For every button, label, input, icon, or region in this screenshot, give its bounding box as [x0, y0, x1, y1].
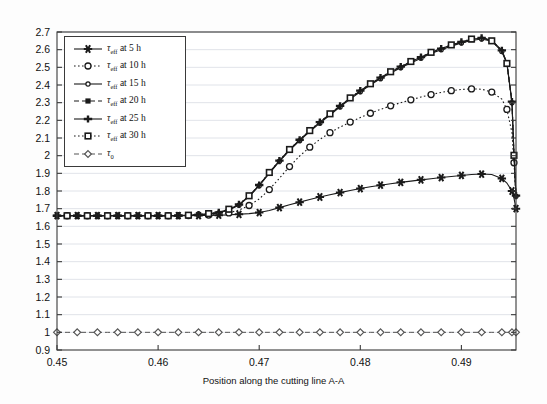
legend-label: τeff at 15 h — [107, 78, 146, 90]
y-tick-label: 1.4 — [35, 255, 50, 267]
y-tick-label: 1.1 — [35, 308, 50, 320]
legend-label: τeff at 5 h — [107, 43, 141, 55]
square-filled-icon — [71, 93, 105, 109]
y-tick-label: 1.5 — [35, 238, 50, 250]
legend-item-tau-eff-at-5-h[interactable]: τeff at 5 h — [67, 40, 183, 58]
y-tick-label: 2.1 — [35, 132, 50, 144]
chart-legend[interactable]: τeff at 5 hτeff at 10 hτeff at 15 hτeff … — [64, 36, 186, 167]
x-tick-label: 0.49 — [451, 356, 472, 368]
legend-label: τeff at 25 h — [107, 113, 146, 125]
legend-label: τeff at 30 h — [107, 130, 146, 142]
legend-label: τeff at 20 h — [107, 95, 146, 107]
y-tick-label: 1.9 — [35, 167, 50, 179]
chart-figure: 0.911.11.21.31.41.51.61.71.81.922.12.22.… — [0, 0, 547, 404]
y-tick-label: 2 — [44, 149, 50, 161]
y-tick-label: 1 — [44, 326, 50, 338]
y-tick-label: 1.7 — [35, 202, 50, 214]
y-tick-label: 1.3 — [35, 273, 50, 285]
legend-label: τ0 — [107, 148, 114, 160]
legend-item-tau-eff-at-15-h[interactable]: τeff at 15 h — [67, 75, 183, 93]
x-tick-label: 0.48 — [350, 356, 371, 368]
legend-label: τeff at 10 h — [107, 60, 146, 72]
circle-open-icon — [71, 58, 105, 74]
y-tick-label: 1.6 — [35, 220, 50, 232]
legend-item-tau-eff-at-10-h[interactable]: τeff at 10 h — [67, 58, 183, 76]
x-tick-label: 0.45 — [47, 356, 68, 368]
y-tick-label: 2.6 — [35, 43, 50, 55]
y-tick-label: 2.7 — [35, 26, 50, 38]
y-tick-label: 1.8 — [35, 185, 50, 197]
x-axis-label: Position along the cutting line A-A — [0, 375, 547, 386]
legend-item-tau-eff-at-20-h[interactable]: τeff at 20 h — [67, 93, 183, 111]
asterisk-icon — [71, 41, 105, 57]
legend-item-tau-eff-at-25-h[interactable]: τeff at 25 h — [67, 110, 183, 128]
y-tick-label: 2.2 — [35, 114, 50, 126]
x-tick-label: 0.47 — [249, 356, 270, 368]
y-tick-label: 2.3 — [35, 96, 50, 108]
x-tick-label: 0.46 — [148, 356, 169, 368]
diamond-open-icon — [71, 146, 105, 162]
legend-item-tau-eff-at-30-h[interactable]: τeff at 30 h — [67, 128, 183, 146]
y-tick-label: 1.2 — [35, 291, 50, 303]
y-tick-label: 0.9 — [35, 344, 50, 356]
y-tick-label: 2.4 — [35, 79, 50, 91]
y-tick-label: 2.5 — [35, 61, 50, 73]
circle-small-icon — [71, 76, 105, 92]
square-open-icon — [71, 128, 105, 144]
legend-item-tau-0[interactable]: τ0 — [67, 145, 183, 163]
plus-filled-icon — [71, 111, 105, 127]
